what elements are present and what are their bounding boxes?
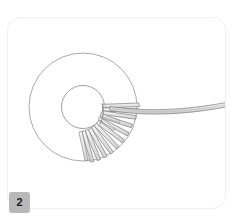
figure-panel: 2: [0, 0, 241, 222]
panel-index-badge: 2: [9, 192, 30, 213]
panel-border: [7, 17, 226, 209]
panel-index-label: 2: [16, 197, 22, 208]
